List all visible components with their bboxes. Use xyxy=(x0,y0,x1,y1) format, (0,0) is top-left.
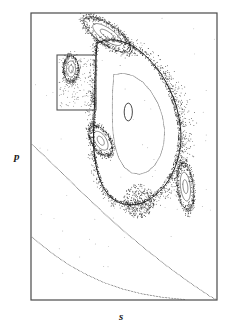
poincare-section-plot xyxy=(0,0,233,336)
x-axis-label: s xyxy=(119,310,123,322)
poincare-section-figure: p s xyxy=(0,0,233,336)
y-axis-label: p xyxy=(14,150,20,162)
